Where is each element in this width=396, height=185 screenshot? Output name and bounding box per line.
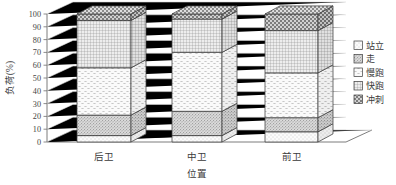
legend-label-walk: 走: [366, 54, 375, 64]
legend-label-run: 快跑: [366, 80, 384, 91]
y-tick-label: 40: [33, 87, 41, 96]
x-tick-label-forward: 前卫: [282, 151, 302, 162]
bar-segment-standing[interactable]: [172, 136, 222, 142]
y-tick-label: 90: [33, 23, 41, 32]
bar-segment-run[interactable]: [77, 20, 131, 67]
legend-item-standing[interactable]: 站立: [354, 40, 384, 51]
y-tick-label: 60: [33, 61, 41, 70]
legend-swatch-jog: [354, 68, 363, 77]
bar-segment-standing[interactable]: [265, 132, 318, 142]
legend-item-walk[interactable]: 走: [354, 54, 375, 64]
legend-item-jog[interactable]: 慢跑: [354, 67, 384, 78]
y-tick-label: 20: [33, 112, 41, 121]
y-axis-title: 负荷(%): [4, 61, 16, 95]
legend-item-run[interactable]: 快跑: [354, 80, 384, 91]
bar-segment-run[interactable]: [265, 31, 318, 73]
x-tick-labels: 后卫 中卫 前卫: [94, 151, 302, 162]
bar-group-midfielder[interactable]: [172, 6, 237, 142]
bar-group-forward[interactable]: [265, 6, 333, 142]
x-tick-label-midfielder: 中卫: [187, 151, 207, 162]
legend-swatch-sprint: [354, 95, 363, 104]
bar-group-defender[interactable]: [77, 6, 146, 142]
y-tick-label: 80: [33, 36, 41, 45]
chart-container: 100 90 80 70 60 50 40 30 20 10 0 负荷(%): [0, 0, 396, 185]
y-tick-label: 70: [33, 48, 41, 57]
bar-segment-jog-side: [131, 60, 146, 115]
x-tick-label-defender: 后卫: [94, 152, 114, 162]
stacked-column-chart: 100 90 80 70 60 50 40 30 20 10 0 负荷(%): [0, 0, 396, 185]
legend-swatch-standing: [354, 41, 363, 50]
bar-segment-jog[interactable]: [265, 73, 318, 118]
bar-segment-sprint[interactable]: [77, 14, 131, 20]
legend-label-standing: 站立: [366, 40, 384, 51]
legend-item-sprint[interactable]: 冲刺: [354, 94, 384, 105]
bar-segment-jog[interactable]: [77, 68, 131, 115]
bar-segment-sprint[interactable]: [265, 14, 318, 31]
bar-segment-run-side: [318, 23, 333, 73]
y-tick-label: 10: [33, 125, 41, 134]
bar-segment-walk[interactable]: [172, 111, 222, 135]
legend-label-jog: 慢跑: [366, 67, 384, 78]
y-tick-label: 50: [33, 74, 41, 83]
bar-segment-run-side: [131, 12, 146, 68]
bar-segment-walk[interactable]: [265, 118, 318, 132]
y-tick-label: 0: [37, 138, 41, 147]
bar-segment-jog-side: [318, 65, 333, 118]
y-tick-label: 30: [33, 100, 41, 109]
legend-swatch-walk: [354, 55, 363, 64]
bar-segment-run[interactable]: [172, 19, 222, 52]
x-axis-title: 位置: [187, 168, 207, 179]
y-tick-label: 100: [29, 10, 41, 19]
legend-swatch-run: [354, 82, 363, 91]
y-tick-labels: 100 90 80 70 60 50 40 30 20 10 0: [29, 10, 41, 147]
bar-segment-walk[interactable]: [77, 115, 131, 136]
bar-segment-jog[interactable]: [172, 52, 222, 111]
legend-label-sprint: 冲刺: [366, 94, 384, 105]
bar-segment-sprint[interactable]: [172, 14, 222, 19]
bar-segment-jog-side: [222, 44, 237, 111]
bar-segment-standing[interactable]: [77, 136, 131, 142]
legend: 站立 走 慢跑 快跑 冲刺: [354, 40, 384, 105]
